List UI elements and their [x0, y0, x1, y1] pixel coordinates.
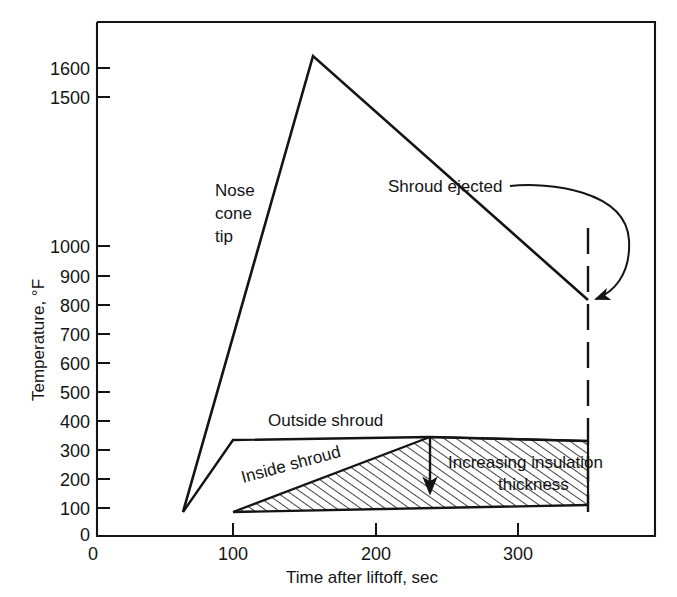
x-tick-label: 200	[361, 544, 391, 564]
y-tick-label: 200	[60, 470, 90, 490]
y-tick-label: 1500	[50, 88, 90, 108]
figure-container: Temperature, °F 1600 1500 1000 900 800 7…	[0, 0, 677, 597]
x-tick-label: 100	[218, 544, 248, 564]
outside-shroud-label: Outside shroud	[268, 411, 383, 430]
x-tick-label-zero: 0	[88, 544, 98, 564]
x-axis-ticks	[233, 523, 518, 536]
y-tick-label: 1000	[50, 237, 90, 257]
y-tick-label: 600	[60, 354, 90, 374]
y-tick-label: 500	[60, 383, 90, 403]
y-axis-title-text: Temperature, °F	[29, 279, 48, 401]
y-tick-label: 100	[60, 499, 90, 519]
cropped-caption-text	[0, 578, 677, 597]
nose-cone-label-line1: Nose	[215, 181, 255, 200]
x-axis-tick-labels: 0 100 200 300	[88, 544, 533, 564]
y-axis-tick-labels: 1600 1500 1000 900 800 700 600 500 400 3…	[50, 59, 90, 545]
x-tick-label: 300	[503, 544, 533, 564]
nose-cone-label-line2: cone	[215, 204, 252, 223]
y-axis-ticks	[97, 68, 110, 508]
cropped-caption-span	[238, 578, 438, 592]
insulation-label-line2: thickness	[498, 475, 569, 494]
y-tick-label: 1600	[50, 59, 90, 79]
y-tick-label: 900	[60, 267, 90, 287]
y-tick-label: 400	[60, 412, 90, 432]
nose-cone-label-line3: tip	[215, 227, 233, 246]
insulation-label-line1: Increasing insulation	[448, 453, 603, 472]
y-tick-label: 800	[60, 296, 90, 316]
y-tick-label: 300	[60, 441, 90, 461]
temperature-vs-time-chart: Temperature, °F 1600 1500 1000 900 800 7…	[0, 0, 677, 597]
shroud-ejected-label: Shroud ejected	[388, 177, 502, 196]
y-axis-title: Temperature, °F	[29, 279, 48, 401]
y-tick-label: 700	[60, 325, 90, 345]
y-tick-label-zero: 0	[80, 525, 90, 545]
